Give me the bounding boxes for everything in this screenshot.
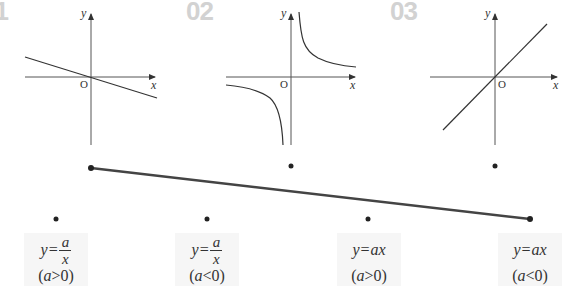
option-2-dot[interactable] bbox=[205, 217, 210, 222]
origin-label: O bbox=[280, 78, 288, 90]
fraction: a x bbox=[210, 235, 222, 266]
y-label: y bbox=[484, 6, 491, 20]
x-label: x bbox=[552, 78, 559, 92]
option-3-dot[interactable] bbox=[366, 217, 371, 222]
graph-01[interactable]: O x y bbox=[25, 6, 157, 145]
condition: (a>0) bbox=[24, 267, 88, 285]
equation-lhs: y= bbox=[41, 241, 59, 259]
equation-lhs: y=ax bbox=[514, 241, 547, 259]
condition: (a>0) bbox=[337, 267, 401, 285]
numerator: a bbox=[213, 235, 221, 249]
condition: (a<0) bbox=[175, 267, 239, 285]
hyperbola-branch-q3 bbox=[226, 85, 283, 145]
option-2-label[interactable]: y= a x (a<0) bbox=[175, 233, 239, 286]
panel-01-dot[interactable] bbox=[88, 165, 94, 171]
panel-03-dot[interactable] bbox=[493, 164, 498, 169]
origin-label: O bbox=[80, 78, 88, 90]
y-label: y bbox=[280, 6, 287, 20]
hyperbola-branch-q1 bbox=[299, 12, 356, 67]
denominator: x bbox=[213, 252, 220, 266]
equation: y=ax bbox=[337, 235, 401, 265]
numerator: a bbox=[62, 235, 70, 249]
equation: y= a x bbox=[24, 235, 88, 265]
fraction: a x bbox=[59, 235, 71, 266]
denominator: x bbox=[62, 252, 69, 266]
panel-02-dot[interactable] bbox=[289, 164, 294, 169]
equation-lhs: y= bbox=[192, 241, 210, 259]
equation: y=ax bbox=[498, 235, 562, 265]
option-3-label[interactable]: y=ax (a>0) bbox=[337, 233, 401, 286]
graph-03[interactable]: O x y bbox=[430, 6, 559, 145]
match-line-01-to-option-4 bbox=[91, 168, 530, 219]
x-label: x bbox=[349, 78, 356, 92]
option-1-dot[interactable] bbox=[54, 217, 59, 222]
equation: y= a x bbox=[175, 235, 239, 265]
option-1-label[interactable]: y= a x (a>0) bbox=[24, 233, 88, 286]
condition: (a<0) bbox=[498, 267, 562, 285]
origin-label: O bbox=[498, 78, 506, 90]
equation-lhs: y=ax bbox=[353, 241, 386, 259]
option-4-label[interactable]: y=ax (a<0) bbox=[498, 233, 562, 286]
option-4-dot[interactable] bbox=[527, 216, 533, 222]
y-label: y bbox=[80, 6, 87, 20]
x-label: x bbox=[150, 78, 157, 92]
graph-02[interactable]: O x y bbox=[226, 6, 356, 145]
